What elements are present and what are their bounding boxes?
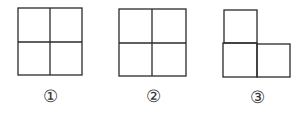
figure-1-label: ①: [38, 86, 62, 106]
figure-1: [18, 8, 82, 75]
figure-2: [119, 9, 186, 76]
figure-3-label: ③: [245, 87, 269, 107]
figure-3: [223, 10, 290, 77]
figure-2-label: ②: [141, 86, 165, 106]
